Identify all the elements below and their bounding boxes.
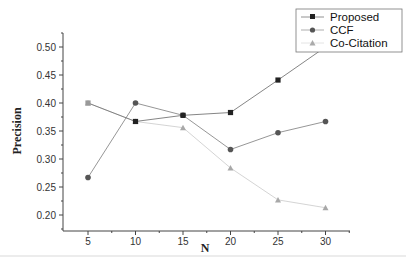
y-axis-title: Precision <box>10 107 24 154</box>
legend-label: Proposed <box>330 11 379 23</box>
y-tick-label: 0.30 <box>37 154 57 165</box>
y-tick-label: 0.45 <box>37 70 57 81</box>
x-tick-label: 25 <box>272 236 284 247</box>
series-markers <box>85 44 329 210</box>
legend-label: Co-Citation <box>330 37 388 49</box>
y-tick-label: 0.25 <box>37 182 57 193</box>
x-tick-label: 30 <box>320 236 332 247</box>
y-tick-label: 0.40 <box>37 98 57 109</box>
square-marker-icon <box>180 113 185 118</box>
circle-marker-icon <box>323 119 329 125</box>
y-tick-label: 0.50 <box>37 42 57 53</box>
series-line-co-citation <box>88 103 326 208</box>
square-marker-icon <box>310 14 315 19</box>
square-marker-icon <box>133 119 138 124</box>
legend: Proposed CCF Co-Citation <box>296 9 402 52</box>
square-marker-icon <box>85 100 90 105</box>
legend-label: CCF <box>330 24 354 36</box>
circle-marker-icon <box>228 147 234 153</box>
square-marker-icon <box>275 77 280 82</box>
square-marker-icon <box>228 110 233 115</box>
circle-marker-icon <box>85 175 91 181</box>
y-axis: 0.200.250.300.350.400.450.50 <box>37 33 63 231</box>
bottom-divider <box>0 255 406 257</box>
triangle-marker-icon <box>275 197 281 203</box>
x-tick-label: 20 <box>225 236 237 247</box>
series-line-proposed <box>88 47 326 121</box>
circle-marker-icon <box>310 27 315 32</box>
x-tick-label: 5 <box>85 236 91 247</box>
x-axis-title: N <box>201 241 210 255</box>
precision-line-chart: 0.200.250.300.350.400.450.50 51015202530… <box>0 0 406 267</box>
circle-marker-icon <box>275 130 281 136</box>
y-tick-label: 0.20 <box>37 210 57 221</box>
y-tick-label: 0.35 <box>37 126 57 137</box>
circle-marker-icon <box>133 100 139 106</box>
series-lines <box>88 47 326 208</box>
x-tick-label: 10 <box>130 236 142 247</box>
x-tick-label: 15 <box>177 236 189 247</box>
